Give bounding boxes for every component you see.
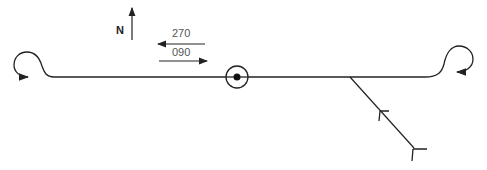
track-label-270: 270	[172, 27, 190, 39]
left-procedure-turn-icon	[14, 52, 54, 77]
track-label-090: 090	[172, 46, 190, 58]
vor-station-icon	[226, 66, 248, 88]
chevron-icon	[412, 149, 427, 161]
chevron-icon	[379, 111, 389, 121]
north-label: N	[116, 24, 124, 36]
right-procedure-turn-icon	[425, 46, 473, 77]
track-diagram: N 270 090	[0, 0, 487, 170]
intercept-track	[350, 77, 427, 161]
